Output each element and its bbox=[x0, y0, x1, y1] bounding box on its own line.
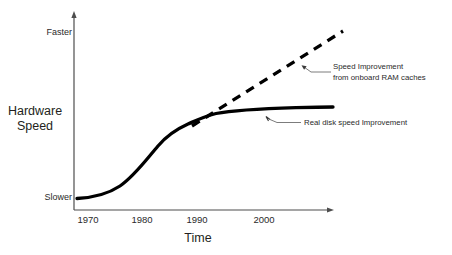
y-axis-title-line2: Speed bbox=[2, 119, 68, 134]
y-axis-arrowhead bbox=[71, 11, 76, 18]
x-tick-label-1970: 1970 bbox=[66, 214, 110, 225]
y-axis-top-label: Faster bbox=[28, 27, 72, 38]
ram-annotation-leader-line bbox=[304, 67, 331, 72]
x-tick-label-1990: 1990 bbox=[175, 214, 219, 225]
ram-annotation-arrowhead bbox=[302, 65, 307, 70]
series-ram-cache-dashed-line bbox=[192, 31, 343, 126]
annotation-real-disk-line1: Real disk speed Improvement bbox=[304, 118, 407, 129]
annotation-ram-caches-line2: from onboard RAM caches bbox=[333, 73, 426, 84]
x-axis-arrowhead bbox=[327, 207, 334, 212]
x-axis-title: Time bbox=[160, 231, 236, 246]
x-tick-label-2000: 2000 bbox=[242, 214, 286, 225]
y-axis-title-line1: Hardware bbox=[2, 104, 68, 119]
x-tick-label-1980: 1980 bbox=[120, 214, 164, 225]
series-real-disk-speed-curve bbox=[77, 107, 333, 199]
hardware-speed-chart: Faster Slower Hardware Speed 1970 1980 1… bbox=[0, 0, 452, 255]
y-axis-bottom-label: Slower bbox=[28, 192, 72, 203]
disk-annotation-leader-line bbox=[270, 120, 301, 123]
disk-annotation-hook bbox=[266, 117, 270, 122]
annotation-ram-caches-line1: Speed Improvement bbox=[333, 62, 403, 73]
